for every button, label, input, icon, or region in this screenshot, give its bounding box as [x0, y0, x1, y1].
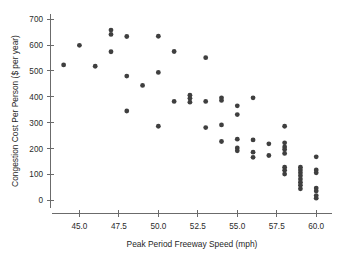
x-tick-label: 55.0	[229, 222, 245, 231]
y-tick-label: 500	[29, 67, 43, 76]
data-point	[172, 49, 177, 54]
data-point	[251, 138, 256, 143]
data-point	[314, 196, 319, 201]
data-point	[282, 140, 287, 145]
data-point	[251, 150, 256, 155]
y-tick-label: 400	[29, 93, 43, 102]
data-point	[203, 125, 208, 130]
data-point	[251, 95, 256, 100]
data-point	[156, 124, 161, 129]
y-axis-title: Congestion Cost Per Person ($ per year)	[10, 35, 20, 187]
x-tick-label: 52.5	[190, 222, 206, 231]
data-point	[203, 99, 208, 104]
data-point	[314, 170, 319, 175]
x-tick-label: 45.0	[71, 222, 87, 231]
y-tick-label: 200	[29, 145, 43, 154]
y-axis: 0100200300400500600700	[29, 14, 54, 208]
x-tick-label: 47.5	[111, 222, 127, 231]
y-tick-label: 700	[29, 15, 43, 24]
data-point	[266, 141, 271, 146]
x-tick-label: 50.0	[150, 222, 166, 231]
data-point	[93, 64, 98, 69]
y-tick-label: 100	[29, 170, 43, 179]
data-point	[219, 98, 224, 103]
data-point	[188, 100, 193, 105]
data-point	[282, 124, 287, 129]
data-point	[235, 137, 240, 142]
data-point	[61, 63, 66, 68]
data-point	[314, 154, 319, 159]
data-point	[282, 172, 287, 177]
plot-area: 0100200300400500600700 45.047.550.052.55…	[0, 0, 344, 260]
data-point	[124, 74, 129, 79]
data-point	[140, 83, 145, 88]
y-tick-label: 300	[29, 119, 43, 128]
data-point	[235, 148, 240, 153]
y-tick-label: 0	[38, 196, 43, 205]
data-point	[298, 186, 303, 191]
data-point	[77, 43, 82, 48]
data-point	[235, 112, 240, 117]
data-point	[219, 139, 224, 144]
data-point	[266, 153, 271, 158]
data-point	[219, 123, 224, 128]
data-point	[314, 189, 319, 194]
data-point	[124, 34, 129, 39]
data-point	[109, 28, 114, 33]
data-point	[251, 155, 256, 160]
data-point	[203, 55, 208, 60]
data-point	[156, 34, 161, 39]
x-axis-title: Peak Period Freeway Speed (mph)	[127, 239, 258, 249]
data-point	[109, 49, 114, 54]
data-point	[172, 99, 177, 104]
x-tick-label: 57.5	[269, 222, 285, 231]
data-point	[282, 151, 287, 156]
data-point	[235, 103, 240, 108]
x-tick-label: 60.0	[308, 222, 324, 231]
y-tick-label: 600	[29, 41, 43, 50]
scatter-chart: 0100200300400500600700 45.047.550.052.55…	[0, 0, 344, 260]
data-points	[61, 28, 318, 201]
x-axis: 45.047.550.052.555.057.560.0	[52, 210, 332, 231]
data-point	[124, 109, 129, 114]
data-point	[156, 70, 161, 75]
data-point	[109, 32, 114, 37]
